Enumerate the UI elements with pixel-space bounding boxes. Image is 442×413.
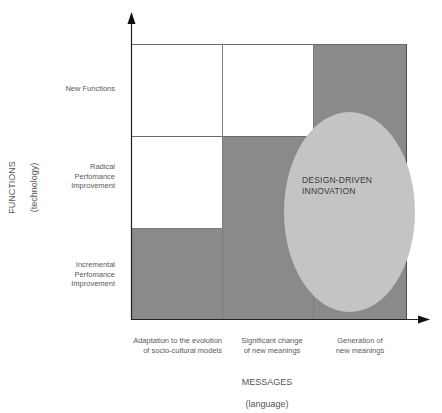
col-label-significant-change: Significant change of new meanings: [232, 336, 312, 355]
x-axis-arrow-icon: [418, 316, 430, 324]
x-axis-title: MESSAGES (language): [232, 366, 302, 413]
y-axis-title-sub: (technology): [29, 153, 40, 223]
x-axis-title-sub: (language): [232, 399, 302, 410]
row-label-incremental: Incremental Perfomance Improvement: [71, 260, 115, 289]
y-axis-title: FUNCTIONS (technology): [0, 153, 51, 223]
x-axis-title-main: MESSAGES: [232, 377, 302, 388]
col-label-adaptation: Adaptation to the evolution of socio-cul…: [112, 336, 222, 355]
y-axis-arrow-icon: [128, 12, 136, 24]
row-label-new-functions: New Functions: [65, 84, 115, 94]
y-axis-title-main: FUNCTIONS: [7, 153, 18, 223]
row-label-radical: Radical Perfomance Improvement: [71, 162, 115, 191]
col-label-generation: Generation of new meanings: [325, 336, 395, 355]
